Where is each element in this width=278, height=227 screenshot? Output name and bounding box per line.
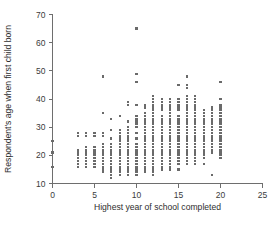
data-point <box>169 143 171 145</box>
data-point <box>93 146 95 148</box>
data-point <box>161 120 163 122</box>
data-point <box>169 149 171 151</box>
data-point <box>119 129 121 131</box>
data-point <box>85 146 87 148</box>
data-point <box>203 135 205 137</box>
data-point <box>219 151 221 153</box>
data-point <box>177 129 179 131</box>
data-point <box>177 140 179 142</box>
data-point <box>144 151 146 153</box>
data-point <box>169 129 171 131</box>
data-point <box>177 149 179 151</box>
data-point <box>203 112 205 114</box>
data-point <box>169 140 171 142</box>
data-point <box>119 151 121 153</box>
data-point <box>161 98 163 100</box>
data-point <box>177 115 179 117</box>
data-point <box>119 174 121 176</box>
data-point <box>152 166 154 168</box>
data-point <box>186 87 188 89</box>
data-point <box>135 149 137 151</box>
data-point <box>169 166 171 168</box>
data-point <box>219 154 221 156</box>
data-point <box>219 106 221 108</box>
data-point <box>161 151 163 153</box>
data-point <box>152 95 154 97</box>
data-point <box>119 115 121 117</box>
data-point <box>219 157 221 159</box>
data-point <box>152 154 154 156</box>
data-point <box>203 120 205 122</box>
data-point <box>194 112 196 114</box>
data-point <box>119 154 121 156</box>
data-point <box>161 126 163 128</box>
data-point <box>93 135 95 137</box>
data-point <box>186 137 188 139</box>
data-point <box>110 177 112 179</box>
data-point <box>135 166 137 168</box>
scatter-plot-figure: 102030405060700510152025Highest year of … <box>0 0 278 227</box>
data-point <box>135 27 137 29</box>
data-point <box>194 157 196 159</box>
data-point <box>203 118 205 120</box>
data-point <box>110 163 112 165</box>
data-point <box>161 146 163 148</box>
data-point <box>85 149 87 151</box>
data-point <box>127 168 129 170</box>
data-point <box>102 135 104 137</box>
data-point <box>219 109 221 111</box>
data-point <box>177 126 179 128</box>
data-point <box>77 154 79 156</box>
data-point <box>144 129 146 131</box>
data-point <box>152 168 154 170</box>
data-point <box>177 137 179 139</box>
data-point <box>194 149 196 151</box>
data-point <box>186 126 188 128</box>
data-point <box>135 126 137 128</box>
data-point <box>152 115 154 117</box>
data-point <box>135 104 137 106</box>
data-point <box>144 115 146 117</box>
data-point <box>186 115 188 117</box>
data-point <box>203 132 205 134</box>
x-axis-title: Highest year of school completed <box>94 202 221 212</box>
data-point <box>211 143 213 145</box>
data-point <box>135 154 137 156</box>
data-point <box>127 146 129 148</box>
data-point <box>194 146 196 148</box>
data-point <box>110 157 112 159</box>
data-point <box>211 132 213 134</box>
data-point <box>219 120 221 122</box>
data-point <box>152 109 154 111</box>
data-point <box>127 149 129 151</box>
data-point <box>219 123 221 125</box>
data-point <box>194 129 196 131</box>
data-point <box>177 104 179 106</box>
data-point <box>177 118 179 120</box>
data-point <box>169 137 171 139</box>
data-point <box>135 168 137 170</box>
data-point <box>152 126 154 128</box>
data-point <box>161 163 163 165</box>
data-point <box>186 140 188 142</box>
data-point <box>144 126 146 128</box>
data-point <box>186 132 188 134</box>
data-point <box>194 140 196 142</box>
data-point <box>211 146 213 148</box>
data-point <box>119 140 121 142</box>
data-point <box>102 168 104 170</box>
data-point <box>161 137 163 139</box>
data-point <box>152 163 154 165</box>
data-point <box>135 120 137 122</box>
x-tick-label-20: 20 <box>216 190 226 200</box>
data-point <box>177 151 179 153</box>
data-point <box>127 129 129 131</box>
data-point <box>152 157 154 159</box>
data-point <box>219 149 221 151</box>
data-point <box>169 163 171 165</box>
data-point <box>93 166 95 168</box>
data-point <box>161 129 163 131</box>
data-point <box>161 168 163 170</box>
data-point <box>77 151 79 153</box>
data-point <box>119 166 121 168</box>
